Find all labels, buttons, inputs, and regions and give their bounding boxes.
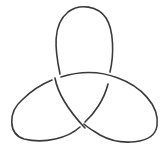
knot-strand-left-diagonal bbox=[55, 78, 85, 128]
knot-strand-middle-arc bbox=[61, 73, 157, 142]
knot-strand-top-loop bbox=[56, 7, 113, 74]
knot-diagram bbox=[0, 0, 167, 155]
knot-strand-right-to-bottom bbox=[85, 84, 108, 122]
trefoil-knot-drawing bbox=[0, 0, 167, 155]
